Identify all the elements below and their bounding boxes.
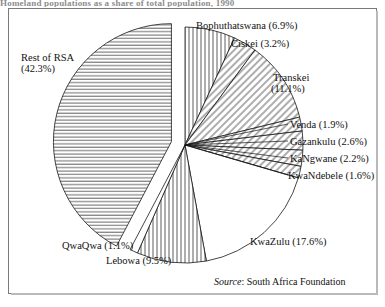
slice-label-bophuthatswana: Bophuthatswana (6.9%) bbox=[196, 20, 297, 32]
slice-label-kwandebele: KwaNdebele (1.6%) bbox=[288, 170, 374, 182]
source-text: South Africa Foundation bbox=[247, 276, 346, 287]
slice-label-kwazulu: KwaZulu (17.6%) bbox=[250, 236, 326, 248]
slice-label-rest-of-rsa-line1: Rest of RSA bbox=[21, 52, 74, 64]
chart-figure: Homeland populations as a share of total… bbox=[0, 0, 385, 307]
source-separator: : bbox=[241, 276, 244, 287]
slice-label-gazankulu: Gazankulu (2.6%) bbox=[290, 136, 367, 148]
slice-label-qwaqwa: QwaQwa (1.1%) bbox=[62, 240, 133, 252]
source-prefix: Source bbox=[214, 276, 241, 287]
slice-label-venda: Venda (1.9%) bbox=[290, 119, 348, 131]
source-note: Source: South Africa Foundation bbox=[214, 276, 346, 287]
slice-label-transkei-line1: Transkei bbox=[273, 72, 309, 84]
slice-label-lebowa: Lebowa (9.5%) bbox=[106, 255, 171, 267]
slice-label-rest-of-rsa-line2: (42.3%) bbox=[21, 63, 55, 75]
slice-label-kangwane: KaNgwane (2.2%) bbox=[290, 153, 369, 165]
slice-label-ciskei: Ciskei (3.2%) bbox=[231, 38, 289, 50]
slice-label-transkei-line2: (11.1%) bbox=[271, 83, 305, 95]
